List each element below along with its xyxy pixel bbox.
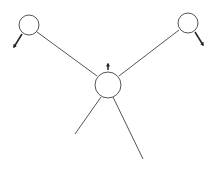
edge-center-lower-left (75, 97, 101, 134)
arrow-left-out-icon (14, 34, 22, 47)
nodes (19, 13, 198, 98)
tree-diagram (0, 0, 212, 169)
node-center (95, 72, 121, 98)
arrows (14, 32, 203, 70)
node-left (19, 15, 39, 35)
edge-center-lower-right (113, 97, 143, 159)
edge-left-center (37, 32, 97, 76)
edge-right-center (119, 30, 179, 76)
node-right (178, 13, 198, 33)
arrow-right-out-icon (195, 32, 203, 45)
